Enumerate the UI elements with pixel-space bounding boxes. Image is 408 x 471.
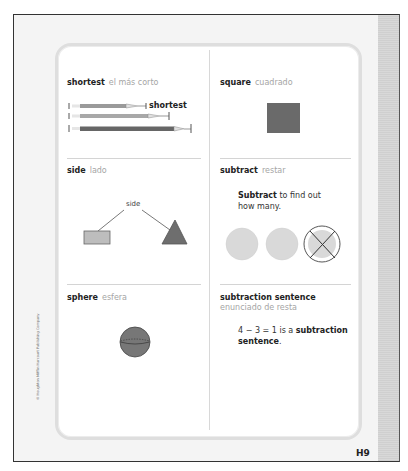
translation-text: restar [262, 166, 286, 175]
translation-text: cuadrado [255, 78, 293, 87]
term-text: square [220, 78, 251, 87]
square-shape [267, 103, 300, 133]
term-text: subtraction sentence [220, 293, 316, 302]
subtract-circles-illustration [224, 225, 346, 265]
sphere-shape [118, 325, 152, 359]
translation-text: lado [90, 166, 107, 175]
page-edge-strip [378, 15, 399, 461]
row-divider-left-1 [67, 158, 201, 159]
subtraction-sentence-description: 4 − 3 = 1 is a subtraction sentence. [238, 325, 353, 347]
term-text: sphere [67, 293, 98, 302]
side-illustration [80, 205, 195, 250]
copyright-notice: © Houghton Mifflin Harcourt Publishing C… [36, 320, 40, 400]
translation-text: el más corto [109, 78, 159, 87]
entry-square-term: squarecuadrado [220, 78, 293, 87]
entry-side-term: sidelado [67, 166, 107, 175]
column-divider [209, 50, 210, 430]
mid-text: is a [277, 326, 296, 335]
term-text: side [67, 166, 86, 175]
row-divider-right-2 [220, 284, 351, 285]
equation-text: 4 − 3 = 1 [238, 326, 277, 335]
entry-subtraction-sentence-translation: enunciado de resta [220, 303, 297, 312]
term-text: subtract [220, 166, 258, 175]
entry-subtraction-sentence-term: subtraction sentence [220, 293, 316, 302]
subtract-bold-word: Subtract [238, 191, 277, 200]
row-divider-right-1 [220, 158, 351, 159]
term-text: shortest [67, 78, 105, 87]
row-divider-left-2 [67, 284, 201, 285]
entry-subtract-term: subtractrestar [220, 166, 285, 175]
end-text: . [279, 337, 282, 346]
entry-shortest-term: shortestel más corto [67, 78, 158, 87]
page-number: H9 [356, 448, 370, 458]
subtract-description: Subtract to find out how many. [238, 190, 338, 212]
shortest-label: shortest [149, 101, 187, 110]
entry-sphere-term: sphereesfera [67, 293, 127, 302]
translation-text: esfera [102, 293, 127, 302]
